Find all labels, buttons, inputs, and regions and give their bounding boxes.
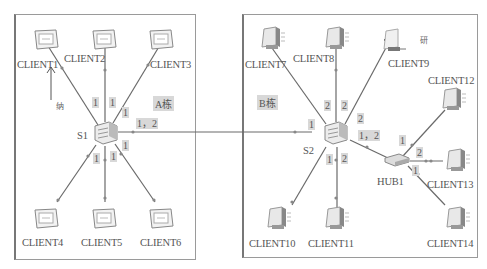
- laptop-icon: [91, 208, 117, 234]
- client-label: CLIENT13: [427, 179, 473, 190]
- port-label: 1: [122, 107, 129, 118]
- port-label: 1: [93, 153, 100, 164]
- port-label: 1: [92, 97, 99, 108]
- port-label: 1，2: [136, 118, 158, 129]
- client-label: CLIENT3: [150, 59, 191, 70]
- arrow-a-note: 纳: [56, 100, 64, 111]
- port-label: 2: [341, 100, 348, 111]
- link-lines: [0, 0, 487, 269]
- desktop-pc-icon: [380, 27, 408, 57]
- client-label: CLIENT14: [427, 238, 473, 249]
- hub-icon: [383, 152, 411, 172]
- port-label: 1: [399, 135, 406, 146]
- port-label: 2: [341, 153, 348, 164]
- desktop-pc-icon: [322, 205, 350, 235]
- client-label: CLIENT10: [249, 238, 295, 249]
- laptop-icon: [33, 208, 59, 234]
- arrow-b-note: 研: [420, 34, 428, 45]
- port-label: 2: [357, 113, 364, 124]
- port-label: 2: [416, 147, 423, 158]
- arrow-a-icon: [47, 67, 55, 100]
- switch-s2-label: S2: [303, 145, 314, 156]
- client-label: CLIENT12: [428, 75, 474, 86]
- port-label: 1: [412, 165, 419, 176]
- laptop-icon: [33, 29, 59, 55]
- port-label: 1，2: [358, 130, 380, 141]
- client-label: CLIENT6: [140, 237, 181, 248]
- port-label: 1: [109, 97, 116, 108]
- laptop-icon: [148, 208, 174, 234]
- desktop-pc-icon: [439, 86, 467, 116]
- switch-s1-label: S1: [77, 130, 88, 141]
- switch-s1-icon: [93, 120, 119, 150]
- client-label: CLIENT5: [81, 237, 122, 248]
- client-label: CLIENT8: [293, 53, 334, 64]
- port-label: 1: [110, 151, 117, 162]
- client-label: CLIENT9: [388, 58, 429, 69]
- zone-a-label: A栋: [153, 96, 174, 111]
- client-label: CLIENT4: [22, 237, 63, 248]
- client-label: CLIENT7: [245, 59, 286, 70]
- zone-b-label: B栋: [257, 95, 278, 110]
- client-label: CLIENT2: [64, 53, 105, 64]
- desktop-pc-icon: [264, 205, 292, 235]
- desktop-pc-icon: [443, 205, 471, 235]
- port-label: 1: [308, 119, 315, 130]
- switch-s2-icon: [323, 120, 349, 150]
- port-label: 2: [324, 100, 331, 111]
- hub1-label: HUB1: [377, 176, 404, 187]
- client-label: CLIENT1: [17, 59, 58, 70]
- port-label: 1: [326, 154, 333, 165]
- client-label: CLIENT11: [308, 238, 354, 249]
- port-label: 1: [122, 140, 129, 151]
- desktop-pc-icon: [258, 25, 286, 55]
- desktop-pc-icon: [322, 25, 350, 55]
- desktop-pc-icon: [443, 147, 471, 177]
- laptop-icon: [148, 29, 174, 55]
- laptop-icon: [91, 29, 117, 55]
